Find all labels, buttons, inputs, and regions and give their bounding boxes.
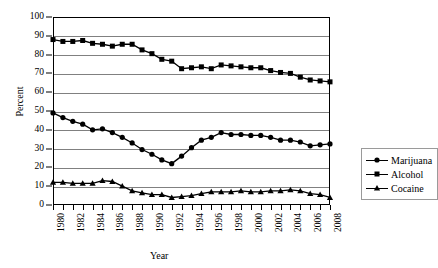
x-tick-label: 1984 bbox=[97, 213, 107, 232]
legend-label: Alcohol bbox=[388, 169, 423, 180]
legend-item-alcohol[interactable]: Alcohol bbox=[366, 167, 432, 181]
y-tick-label: 70 bbox=[35, 69, 45, 79]
circle-marker-icon bbox=[366, 154, 388, 166]
x-tick-mark bbox=[63, 205, 64, 210]
x-tick-mark bbox=[300, 205, 301, 210]
legend-label: Marijuana bbox=[388, 155, 432, 166]
x-tick-label: 1994 bbox=[196, 213, 206, 232]
x-tick-label: 2004 bbox=[294, 213, 304, 232]
gridline bbox=[54, 168, 329, 169]
y-tick-mark bbox=[46, 92, 52, 93]
gridline bbox=[54, 112, 329, 113]
x-tick-mark bbox=[83, 205, 84, 210]
x-tick-mark bbox=[201, 205, 202, 210]
x-tick-label: 1988 bbox=[136, 213, 146, 232]
x-tick-mark bbox=[162, 205, 163, 210]
y-tick-mark bbox=[46, 148, 52, 149]
x-tick-mark bbox=[122, 205, 123, 210]
y-tick-label: 0 bbox=[39, 200, 44, 210]
x-tick-mark bbox=[251, 205, 252, 210]
x-tick-label: 1986 bbox=[116, 213, 126, 232]
x-tick-label: 1980 bbox=[57, 213, 67, 232]
y-tick-mark bbox=[46, 73, 52, 74]
gridline bbox=[54, 74, 329, 75]
x-tick-mark bbox=[73, 205, 74, 210]
y-tick-label: 50 bbox=[35, 106, 45, 116]
x-tick-mark bbox=[112, 205, 113, 210]
x-tick-mark bbox=[310, 205, 311, 210]
x-tick-label: 1982 bbox=[77, 213, 87, 232]
legend-label: Cocaine bbox=[388, 183, 424, 194]
data-point-marker bbox=[375, 172, 380, 177]
x-tick-label: 1992 bbox=[176, 213, 186, 232]
x-tick-label: 1996 bbox=[215, 213, 225, 232]
y-tick-mark bbox=[46, 54, 52, 55]
x-axis-title: Year bbox=[150, 250, 168, 261]
x-tick-label: 1990 bbox=[156, 213, 166, 232]
x-tick-mark bbox=[53, 205, 54, 210]
x-tick-mark bbox=[241, 205, 242, 210]
y-tick-label: 10 bbox=[35, 181, 45, 191]
data-point-marker bbox=[374, 185, 380, 191]
y-tick-mark bbox=[46, 205, 52, 206]
y-tick-mark bbox=[46, 17, 52, 18]
y-tick-mark bbox=[46, 186, 52, 187]
x-tick-mark bbox=[152, 205, 153, 210]
x-tick-label: 1998 bbox=[235, 213, 245, 232]
x-tick-mark bbox=[290, 205, 291, 210]
legend-item-marijuana[interactable]: Marijuana bbox=[366, 153, 432, 167]
x-tick-label: 2006 bbox=[314, 213, 324, 232]
x-tick-mark bbox=[192, 205, 193, 210]
legend-item-cocaine[interactable]: Cocaine bbox=[366, 181, 432, 195]
triangle-marker-icon bbox=[366, 182, 388, 194]
y-tick-mark bbox=[46, 167, 52, 168]
y-axis: 0102030405060708090100 bbox=[0, 0, 53, 212]
x-tick-mark bbox=[281, 205, 282, 210]
chart-legend: MarijuanaAlcoholCocaine bbox=[361, 148, 438, 200]
y-tick-label: 20 bbox=[35, 163, 45, 173]
y-tick-mark bbox=[46, 111, 52, 112]
data-point-marker bbox=[374, 157, 379, 162]
y-tick-label: 80 bbox=[35, 50, 45, 60]
x-tick-mark bbox=[330, 205, 331, 210]
x-tick-mark bbox=[271, 205, 272, 210]
y-tick-label: 30 bbox=[35, 144, 45, 154]
gridline bbox=[54, 187, 329, 188]
x-tick-mark bbox=[172, 205, 173, 210]
x-tick-mark bbox=[261, 205, 262, 210]
gridline bbox=[54, 93, 329, 94]
y-tick-label: 100 bbox=[30, 12, 44, 22]
y-tick-label: 60 bbox=[35, 87, 45, 97]
gridline bbox=[54, 36, 329, 37]
x-tick-mark bbox=[102, 205, 103, 210]
y-axis-title: Percent bbox=[14, 67, 25, 137]
x-tick-mark bbox=[93, 205, 94, 210]
gridline bbox=[54, 149, 329, 150]
y-tick-label: 40 bbox=[35, 125, 45, 135]
square-marker-icon bbox=[366, 168, 388, 180]
gridline bbox=[54, 130, 329, 131]
y-tick-label: 90 bbox=[35, 31, 45, 41]
y-tick-mark bbox=[46, 129, 52, 130]
x-tick-label: 2000 bbox=[255, 213, 265, 232]
x-tick-mark bbox=[221, 205, 222, 210]
gridline bbox=[54, 55, 329, 56]
x-tick-mark bbox=[142, 205, 143, 210]
x-tick-mark bbox=[132, 205, 133, 210]
x-tick-mark bbox=[231, 205, 232, 210]
x-tick-mark bbox=[320, 205, 321, 210]
x-tick-mark bbox=[211, 205, 212, 210]
y-tick-mark bbox=[46, 35, 52, 36]
plot-area bbox=[53, 17, 330, 205]
x-tick-mark bbox=[182, 205, 183, 210]
x-tick-label: 2002 bbox=[275, 213, 285, 232]
x-tick-label: 2008 bbox=[334, 213, 344, 232]
